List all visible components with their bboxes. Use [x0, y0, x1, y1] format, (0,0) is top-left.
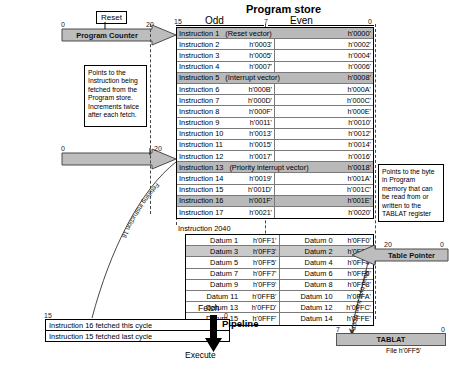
pipeline-arrow: [0, 0, 449, 372]
